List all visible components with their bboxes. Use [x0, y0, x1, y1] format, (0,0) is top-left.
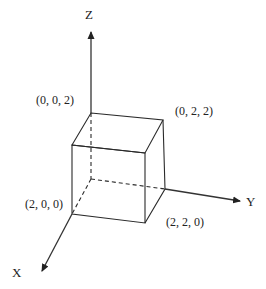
vertex-label-0-0-2: (0, 0, 2) — [36, 93, 74, 107]
z-axis-label: Z — [85, 7, 93, 22]
vertex-label-2-2-0: (2, 2, 0) — [166, 215, 204, 229]
cube-front-face — [72, 145, 145, 223]
y-axis-label: Y — [246, 194, 256, 209]
x-axis-label: X — [12, 265, 22, 280]
hidden-edge-x — [72, 179, 91, 214]
vertex-label-2-0-0: (2, 0, 0) — [25, 197, 63, 211]
x-axis — [42, 214, 72, 271]
cube-diagram: Z Y X (0, 0, 2) (0, 2, 2) (2, 0, 0) (2, … — [0, 0, 266, 289]
vertex-label-0-2-2: (0, 2, 2) — [175, 104, 213, 118]
y-axis — [165, 189, 240, 201]
hidden-edge-y — [91, 179, 165, 189]
